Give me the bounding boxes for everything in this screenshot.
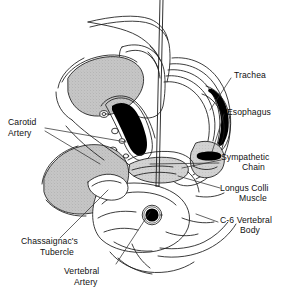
label-vertebral-artery-line2: Artery <box>74 277 98 288</box>
label-c6-vertebral-body-line1: C-6 Vertebral <box>220 215 272 226</box>
label-esophagus: Esophagus <box>227 107 271 118</box>
label-carotid-artery-line2: Artery <box>8 128 32 139</box>
anatomical-figure: Trachea Esophagus Sympathetic Chain Long… <box>0 0 284 290</box>
vertebral-artery-lumen <box>145 208 158 221</box>
lateral-mass-line <box>196 193 224 197</box>
jugular-inner-ring <box>102 113 106 116</box>
label-chassaignacs-tubercle-line2: Tubercle <box>40 247 74 258</box>
label-c6-vertebral-body-line2: Body <box>240 225 260 236</box>
label-longus-colli-line2: Muscle <box>239 193 267 204</box>
tracheal-fascia-1 <box>166 76 215 141</box>
label-longus-colli-line1: Longus Colli <box>220 183 269 194</box>
label-carotid-artery-line1: Carotid <box>8 117 36 128</box>
vertebra-group <box>88 174 190 252</box>
skin-outer-edge <box>88 16 168 40</box>
small-vessel-c <box>123 154 128 158</box>
label-chassaignacs-tubercle-line1: Chassaignac's <box>21 236 78 247</box>
leader-c6-body <box>196 214 218 222</box>
esophagus-lumen <box>197 152 222 161</box>
label-trachea: Trachea <box>234 70 266 81</box>
label-sympathetic-chain-line2: Chain <box>242 162 265 173</box>
label-sympathetic-chain-line1: Sympathetic <box>221 152 269 163</box>
label-vertebral-artery-line1: Vertebral <box>64 266 99 277</box>
vagus-nerve-section <box>112 128 119 134</box>
longus-colli-fill <box>129 157 188 183</box>
